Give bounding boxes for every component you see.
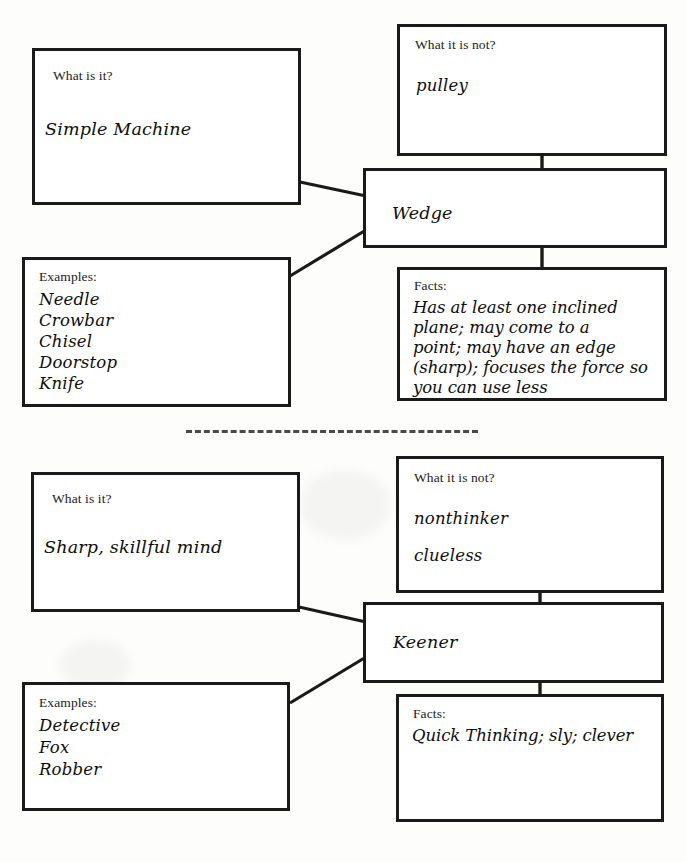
what-it-is-not-answer: clueless [414, 545, 483, 566]
facts-line: you can use less [413, 378, 548, 398]
worksheet-page: What is it? Simple Machine What it is no… [0, 0, 687, 862]
what-is-it-box[interactable]: What is it? Sharp, skillful mind [31, 472, 300, 612]
facts-line: plane; may come to a [413, 318, 589, 338]
facts-prompt: Facts: [413, 707, 446, 722]
examples-prompt: Examples: [39, 696, 97, 711]
center-concept-box[interactable]: Wedge [363, 168, 667, 248]
center-concept-label: Wedge [392, 203, 453, 224]
what-is-it-box[interactable]: What is it? Simple Machine [32, 48, 301, 205]
what-it-is-not-box[interactable]: What it is not? nonthinker clueless [396, 456, 664, 593]
example-item: Doorstop [39, 352, 117, 373]
example-item: Crowbar [39, 310, 113, 331]
examples-box[interactable]: Examples: Detective Fox Robber [22, 682, 290, 811]
connector-what-is-it-to-center [300, 182, 366, 196]
what-is-it-answer: Simple Machine [45, 119, 191, 140]
what-it-is-not-answer: pulley [416, 75, 468, 96]
facts-prompt: Facts: [414, 279, 447, 294]
example-item: Fox [39, 737, 69, 758]
center-concept-box[interactable]: Keener [363, 602, 664, 683]
dashed-separator [186, 430, 478, 433]
examples-box[interactable]: Examples: Needle Crowbar Chisel Doorstop… [22, 257, 291, 407]
facts-line: Quick Thinking; sly; clever [412, 726, 633, 746]
facts-line: point; may have an edge [413, 338, 616, 358]
facts-box[interactable]: Facts: Quick Thinking; sly; clever [396, 694, 664, 822]
example-item: Chisel [39, 331, 92, 352]
what-is-it-prompt: What is it? [53, 69, 113, 84]
examples-prompt: Examples: [39, 270, 97, 285]
what-it-is-not-box[interactable]: What it is not? pulley [397, 24, 667, 156]
paper-smudge [300, 470, 390, 540]
connector-examples-to-center [290, 657, 366, 703]
connector-what-is-it-to-center [299, 607, 366, 622]
what-is-it-answer: Sharp, skillful mind [44, 537, 222, 558]
what-is-it-prompt: What is it? [52, 492, 112, 507]
example-item: Needle [39, 289, 100, 310]
what-it-is-not-prompt: What it is not? [414, 471, 495, 486]
what-it-is-not-answer: nonthinker [414, 508, 508, 529]
connector-examples-to-center [290, 230, 366, 276]
center-concept-label: Keener [393, 632, 458, 653]
facts-line: (sharp); focuses the force so [413, 358, 648, 378]
example-item: Detective [39, 715, 120, 736]
facts-box[interactable]: Facts: Has at least one inclined plane; … [397, 267, 667, 401]
example-item: Robber [39, 759, 101, 780]
facts-line: Has at least one inclined [413, 298, 618, 318]
example-item: Knife [39, 373, 84, 394]
what-it-is-not-prompt: What it is not? [415, 38, 496, 53]
